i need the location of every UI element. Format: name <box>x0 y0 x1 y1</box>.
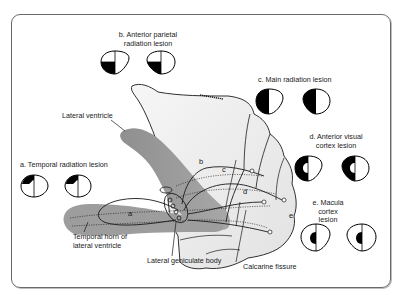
pathway-letter-e: e <box>289 211 293 220</box>
pathway-letter-d: d <box>243 187 247 196</box>
field-e-left <box>301 224 330 251</box>
label-lesion-a: a. Temporal radiation lesion <box>20 161 108 170</box>
label-lesion-d: d. Anterior visual cortex lesion <box>300 133 372 150</box>
label-temporal-horn: Temporal horn of lateral ventricle <box>73 233 127 250</box>
field-b-left <box>101 51 129 74</box>
field-a-right <box>65 175 91 197</box>
label-lesion-b: b. Anterior parietal radiation lesion <box>104 31 192 48</box>
label-lateral-geniculate-body: Lateral geniculate body <box>147 257 221 266</box>
label-lateral-ventricle: Lateral ventricle <box>62 112 113 121</box>
field-e-right <box>347 224 376 251</box>
label-lesion-d-line2: cortex lesion <box>300 142 372 151</box>
label-lesion-c: c. Main radiation lesion <box>258 76 332 85</box>
field-c-right <box>303 89 330 114</box>
field-b-right <box>147 51 175 74</box>
field-c-left <box>256 89 283 114</box>
label-temporal-horn-line2: lateral ventricle <box>73 242 127 251</box>
label-lesion-e: e. Macula cortex lesion <box>308 199 348 225</box>
field-d-right <box>342 156 369 181</box>
pathway-letter-c: c <box>222 165 226 174</box>
label-calcarine-fissure: Calcarine fissure <box>243 263 297 272</box>
field-a-left <box>21 175 48 197</box>
pathway-letter-b: b <box>199 157 203 166</box>
label-lesion-e-line3: lesion <box>308 216 348 225</box>
label-lesion-b-line2: radiation lesion <box>104 40 192 49</box>
field-d-left <box>295 156 322 181</box>
